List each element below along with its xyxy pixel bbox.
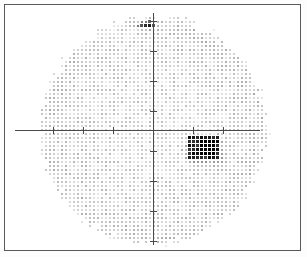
y-axis-tick-5 [150, 181, 157, 182]
y-axis-tick-6 [150, 211, 157, 212]
visual-field-plot [5, 5, 302, 252]
x-axis-tick-5 [223, 127, 224, 134]
x-axis-tick-2 [113, 127, 114, 134]
y-axis-tick-0 [150, 21, 157, 22]
x-axis-tick-4 [193, 127, 194, 134]
x-axis-tick-0 [53, 127, 54, 134]
y-axis-tick-4 [150, 151, 157, 152]
x-axis-tick-1 [83, 127, 84, 134]
plot-frame [4, 4, 301, 251]
screenshot-root [0, 0, 307, 257]
x-axis-tick-3 [153, 127, 154, 134]
y-axis-tick-2 [150, 81, 157, 82]
y-axis-tick-7 [150, 241, 157, 242]
y-axis-tick-1 [150, 51, 157, 52]
y-axis-tick-3 [150, 111, 157, 112]
